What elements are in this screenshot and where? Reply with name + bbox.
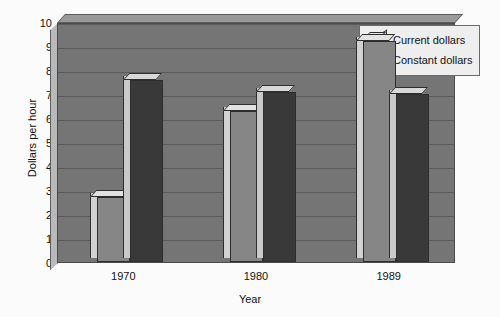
bar-side-face — [389, 90, 396, 258]
x-axis-title: Year — [0, 293, 500, 305]
bar-chart-figure: Dollars per hour 012345678910 1970198019… — [0, 0, 500, 317]
bar-top-face — [256, 85, 295, 92]
y-tick-label: 5 — [22, 137, 52, 149]
bar-front-face — [396, 94, 429, 262]
y-tick-label: 3 — [22, 185, 52, 197]
x-tick-label: 1980 — [226, 270, 286, 282]
bar-side-face — [223, 107, 230, 258]
y-tick-label: 2 — [22, 209, 52, 221]
bar-side-face — [256, 88, 263, 258]
bar-front-face — [263, 92, 296, 262]
bar-top-face — [356, 34, 395, 41]
y-tick-label: 10 — [22, 17, 52, 29]
y-tick-label: 6 — [22, 113, 52, 125]
x-tick-label: 1989 — [359, 270, 419, 282]
y-tick-label: 0 — [22, 257, 52, 269]
x-axis-tick-labels: 197019801989 — [0, 270, 500, 286]
y-tick-label: 7 — [22, 89, 52, 101]
plot-area — [57, 23, 455, 263]
bar-top-face — [389, 87, 428, 94]
legend-item-label: Current dollars — [393, 34, 465, 46]
y-tick-label: 9 — [22, 41, 52, 53]
legend-item-label: Constant dollars — [393, 54, 473, 66]
y-tick-label: 4 — [22, 161, 52, 173]
bar-side-face — [123, 76, 130, 258]
bar-1989-constant — [396, 94, 429, 262]
bar-1980-constant — [263, 92, 296, 262]
x-tick-label: 1970 — [93, 270, 153, 282]
bar-1970-constant — [130, 80, 163, 262]
bar-top-face — [123, 73, 162, 80]
bar-front-face — [130, 80, 163, 262]
plot-wall-top — [57, 14, 463, 23]
y-tick-label: 8 — [22, 65, 52, 77]
y-tick-label: 1 — [22, 233, 52, 245]
bar-side-face — [356, 37, 363, 258]
bar-side-face — [90, 193, 97, 258]
